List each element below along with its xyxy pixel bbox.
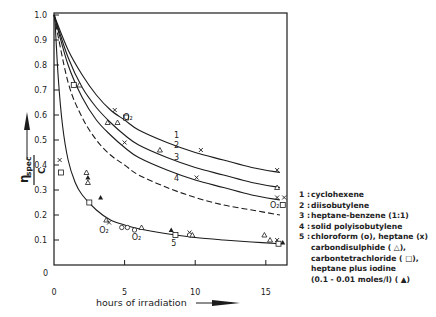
marker-circle-icon (120, 225, 124, 229)
marker-triangle-icon (115, 120, 120, 125)
x-axis-label: hours of irradiation (96, 297, 187, 308)
y-axis-label: ηspecC (17, 155, 47, 185)
y-label-sub: spec (24, 157, 33, 176)
y-tick-label: 0.8 (34, 61, 47, 70)
marker-circle-icon (125, 225, 129, 229)
curve-4 (54, 15, 280, 215)
marker-triangle-icon (268, 238, 273, 243)
legend-item-1: 1 :cyclohexene (299, 190, 428, 201)
marker-x-icon (58, 158, 62, 162)
o2-annotation: O₂ (123, 113, 133, 122)
marker-circle-icon (132, 228, 136, 232)
x-tick-label: 10 (190, 288, 200, 297)
marker-x-icon (282, 196, 286, 200)
legend: 1 :cyclohexene 2 :diisobutylene 3 :hepta… (299, 190, 428, 285)
marker-triangle-icon (262, 233, 267, 238)
legend-text: diisobutylene (311, 201, 369, 212)
legend-number: 1 : (299, 190, 311, 201)
legend-text: heptane-benzene (1:1) (311, 211, 409, 222)
legend-number: 2 : (299, 201, 311, 212)
marker-square-icon (59, 170, 64, 175)
y-tick-label: 1.0 (34, 11, 47, 20)
marker-square-icon (280, 203, 285, 208)
marker-square-icon (87, 200, 92, 205)
marker-x-icon (107, 221, 111, 225)
y-tick-label: 0.5 (34, 136, 47, 145)
legend-text: cyclohexene (311, 190, 364, 201)
marker-square-icon (276, 241, 281, 246)
marker-x-icon (113, 108, 117, 112)
y-label-c: C (37, 167, 47, 174)
x-tick-label: 0 (51, 288, 56, 297)
curve-label-4: 4 (174, 174, 179, 183)
marker-square-icon (173, 233, 178, 238)
y-tick-label: 0.1 (34, 236, 47, 245)
y-tick-label: 0 (43, 269, 48, 278)
y-tick-label: 0.2 (34, 211, 47, 220)
marker-filled-triangle-icon (169, 228, 174, 233)
legend-text: chloroform (o), heptane (x) (311, 232, 428, 243)
legend-continuation: heptane plus iodine (299, 264, 428, 275)
x-tick-label: 5 (122, 288, 127, 297)
legend-item-4: 4 :solid polyisobutylene (299, 222, 428, 233)
legend-number: 4 : (299, 222, 311, 233)
marker-square-icon (71, 83, 76, 88)
marker-x-icon (199, 148, 203, 152)
legend-continuation: (0.1 - 0.01 moles/l) ( ▲) (299, 275, 428, 286)
marker-filled-triangle-icon (85, 175, 90, 180)
x-tick-label: 15 (261, 288, 271, 297)
y-tick-label: 0.6 (34, 111, 47, 120)
curve-1 (54, 15, 280, 173)
curve-2 (54, 15, 280, 188)
o2-annotation: O₂ (270, 201, 280, 210)
legend-number: 5 : (299, 232, 311, 243)
curve-label-1: 1 (174, 131, 179, 140)
marker-x-icon (123, 141, 127, 145)
marker-triangle-icon (157, 148, 162, 153)
o2-annotation: O₂ (132, 233, 142, 242)
curve-label-2: 2 (174, 141, 179, 150)
y-arrow-head-icon (24, 112, 30, 130)
y-tick-label: 0.9 (34, 36, 47, 45)
marker-x-icon (275, 168, 279, 172)
x-arrow-head-icon (212, 300, 240, 306)
marker-filled-triangle-icon (98, 195, 103, 200)
legend-continuation: carbontetrachloride ( □), (299, 254, 428, 265)
curve-label-5: 5 (171, 239, 176, 248)
legend-item-5: 5 :chloroform (o), heptane (x) (299, 232, 428, 243)
legend-number: 3 : (299, 211, 311, 222)
legend-item-2: 2 :diisobutylene (299, 201, 428, 212)
marker-x-icon (195, 176, 199, 180)
y-tick-label: 0.7 (34, 86, 47, 95)
marker-x-icon (275, 196, 279, 200)
plot-frame (54, 13, 287, 265)
legend-text: solid polyisobutylene (311, 222, 402, 233)
marker-triangle-icon (139, 225, 144, 230)
marker-triangle-icon (85, 180, 90, 185)
marker-triangle-icon (105, 120, 110, 125)
curve-label-3: 3 (174, 153, 179, 162)
o2-annotation: O₂ (99, 226, 109, 235)
legend-continuation: carbondisulphide ( △), (299, 243, 428, 254)
marker-triangle-icon (84, 170, 89, 175)
y-tick-label: 0.3 (34, 186, 47, 195)
legend-item-3: 3 :heptane-benzene (1:1) (299, 211, 428, 222)
